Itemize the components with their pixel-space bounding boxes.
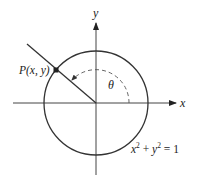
angle-arc-dashed: [72, 70, 129, 103]
point-p-marker: [54, 68, 59, 73]
point-p-label: P(x, y): [18, 64, 50, 77]
y-axis-label: y: [92, 6, 99, 20]
x-axis-label: x: [179, 96, 186, 110]
theta-label: θ: [108, 78, 114, 92]
circle-equation: x2 + y2 = 1: [130, 141, 179, 156]
unit-circle-diagram: x y P(x, y) θ x2 + y2 = 1: [0, 0, 199, 182]
